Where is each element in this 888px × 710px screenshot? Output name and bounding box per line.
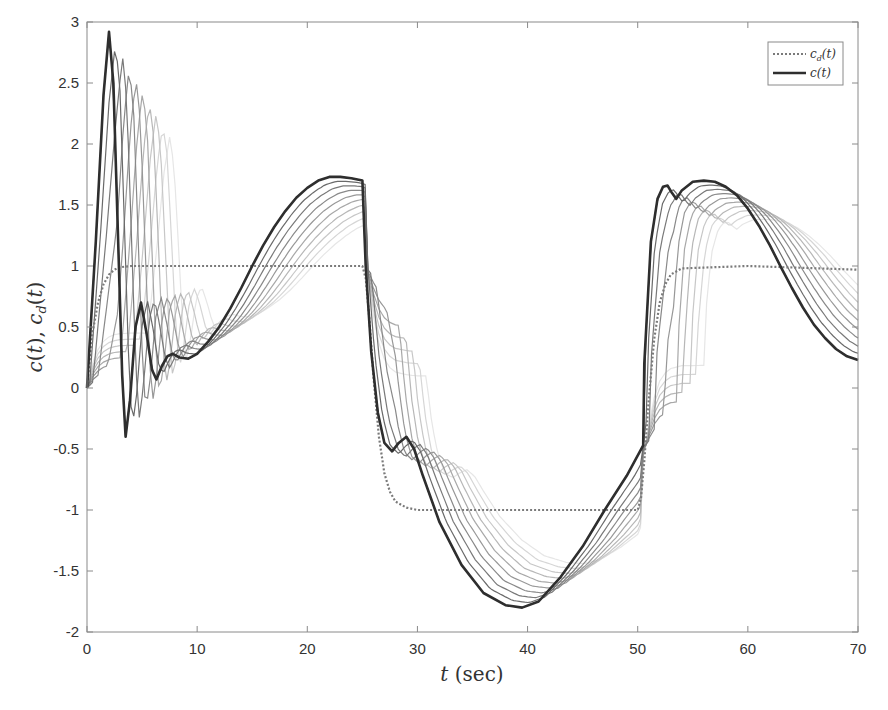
y-axis-label: c(t), cd(t) (23, 282, 49, 373)
x-axis-label: t (sec) (440, 662, 503, 686)
legend-label-cd: cd(t) (810, 47, 836, 63)
x-tick-label: 70 (850, 640, 867, 657)
y-tick-label: 1 (71, 257, 79, 274)
y-tick-label: 3 (71, 13, 79, 30)
iteration-curve (87, 32, 858, 608)
iteration-curves (87, 32, 858, 608)
iteration-curve (87, 96, 858, 583)
legend-label-c: c(t) (810, 66, 831, 80)
line-chart: 010203040506070 -2-1.5-1-0.500.511.522.5… (0, 0, 888, 710)
y-tick-label: -0.5 (53, 440, 79, 457)
series-c-line (87, 32, 858, 608)
x-tick-label: 20 (299, 640, 316, 657)
y-tick-label: -2 (66, 623, 79, 640)
x-tick-label: 10 (189, 640, 206, 657)
x-tick-label: 40 (519, 640, 536, 657)
series-group (87, 32, 858, 608)
y-tick-label: -1.5 (53, 562, 79, 579)
y-tick-label: 0.5 (58, 318, 79, 335)
x-tick-label: 0 (83, 640, 91, 657)
series-cd-line (87, 266, 858, 510)
y-tick-label: 1.5 (58, 196, 79, 213)
x-tick-label: 30 (409, 640, 426, 657)
x-tick-label: 50 (629, 640, 646, 657)
y-tick-label: 0 (71, 379, 79, 396)
y-tick-label: -1 (66, 501, 79, 518)
iteration-curve (87, 52, 858, 603)
legend: cd(t) c(t) (768, 42, 843, 85)
y-tick-label: 2 (71, 135, 79, 152)
x-tick-label: 60 (740, 640, 757, 657)
y-tick-label: 2.5 (58, 74, 79, 91)
iteration-curve (87, 76, 858, 593)
